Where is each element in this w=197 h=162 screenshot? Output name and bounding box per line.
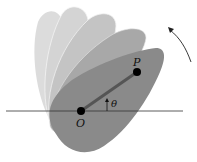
rotating-body-diagram: P O θ [0,0,197,162]
label-p: P [132,56,141,69]
point-p-dot [133,68,141,76]
label-theta: θ [111,98,117,109]
rotation-arrow-icon [168,27,191,62]
label-o: O [76,117,85,130]
point-o-dot [77,107,85,115]
